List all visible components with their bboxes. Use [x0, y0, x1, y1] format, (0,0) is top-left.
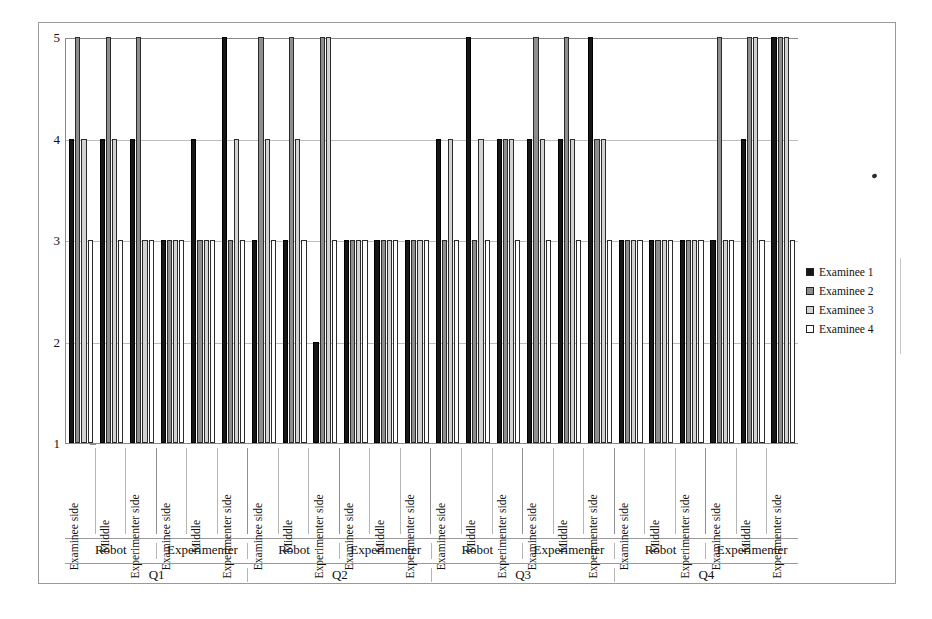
- x-axis-agent-cell: Robot: [248, 539, 340, 563]
- bar-examinee-1: [344, 240, 349, 443]
- bar-cluster: [130, 37, 157, 443]
- bar-examinee-1: [649, 240, 654, 443]
- bar-examinee-4: [301, 240, 306, 443]
- legend-item: Examinee 1: [806, 262, 902, 281]
- bar-examinee-3: [723, 240, 728, 443]
- bar-examinee-3: [295, 139, 300, 444]
- legend-label: Examinee 3: [819, 304, 874, 316]
- bar-cluster: [100, 37, 127, 443]
- bar-cluster: [710, 37, 737, 443]
- y-tick-label-1: 1: [34, 437, 60, 450]
- bar-examinee-2: [411, 240, 416, 443]
- bar-examinee-4: [729, 240, 734, 443]
- x-axis-position-cell: Experimenter side: [126, 444, 157, 538]
- bar-examinee-3: [509, 139, 514, 444]
- bar-examinee-4: [362, 240, 367, 443]
- bar-cluster: [344, 240, 371, 443]
- bar-examinee-1: [588, 37, 593, 443]
- x-axis-question-cell: Q2: [248, 564, 431, 586]
- bar-examinee-1: [527, 139, 532, 444]
- y-tick-label-5: 5: [34, 31, 60, 44]
- bar-examinee-2: [686, 240, 691, 443]
- bar-examinee-1: [680, 240, 685, 443]
- legend-swatch-icon: [806, 287, 814, 295]
- x-axis-agent-cell: Robot: [432, 539, 524, 563]
- bar-examinee-1: [283, 240, 288, 443]
- bar-examinee-4: [637, 240, 642, 443]
- bar-examinee-3: [478, 139, 483, 444]
- x-axis-agent-cell: Experimenter: [340, 539, 432, 563]
- bar-examinee-4: [668, 240, 673, 443]
- bar-cluster: [69, 37, 96, 443]
- legend-divider: [900, 258, 901, 354]
- x-axis-question-label: Q1: [65, 567, 248, 583]
- bar-cluster: [191, 139, 218, 444]
- bar-examinee-3: [142, 240, 147, 443]
- bar-examinee-2: [655, 240, 660, 443]
- bar-examinee-2: [747, 37, 752, 443]
- plot-area: [65, 38, 798, 444]
- bar-examinee-3: [784, 37, 789, 443]
- bar-cluster: [680, 240, 707, 443]
- bar-cluster: [466, 37, 493, 443]
- x-axis-position-cell: Middle: [187, 444, 218, 538]
- y-tick-label-3: 3: [34, 234, 60, 247]
- x-axis-position-cell: Examinee side: [340, 444, 371, 538]
- bar-examinee-2: [442, 240, 447, 443]
- bar-examinee-3: [81, 139, 86, 444]
- bar-cluster: [741, 37, 768, 443]
- bar-examinee-2: [472, 240, 477, 443]
- bar-examinee-4: [454, 240, 459, 443]
- bar-examinee-2: [350, 240, 355, 443]
- x-axis-position-cell: Experimenter side: [493, 444, 524, 538]
- bar-examinee-4: [332, 240, 337, 443]
- x-axis-position-cell: Middle: [645, 444, 676, 538]
- bar-examinee-2: [289, 37, 294, 443]
- x-axis-question-label: Q4: [615, 567, 798, 583]
- bar-examinee-3: [173, 240, 178, 443]
- bar-examinee-2: [320, 37, 325, 443]
- bar-examinee-3: [540, 139, 545, 444]
- x-axis-position-cell: Examinee side: [523, 444, 554, 538]
- bar-examinee-4: [118, 240, 123, 443]
- bar-examinee-2: [381, 240, 386, 443]
- bar-cluster: [771, 37, 798, 443]
- x-axis-agent-cell: Experimenter: [706, 539, 798, 563]
- bar-examinee-4: [698, 240, 703, 443]
- bar-cluster: [313, 37, 340, 443]
- bar-examinee-2: [594, 139, 599, 444]
- x-axis-agent-cell: Robot: [65, 539, 157, 563]
- bar-examinee-2: [136, 37, 141, 443]
- bar-examinee-2: [197, 240, 202, 443]
- x-axis-question-band: Q1Q2Q3Q4: [65, 564, 798, 586]
- x-axis-agent-label: Experimenter: [706, 542, 798, 558]
- x-axis-agent-label: Experimenter: [523, 542, 615, 558]
- legend-item: Examinee 2: [806, 281, 902, 300]
- bar-examinee-4: [424, 240, 429, 443]
- bar-cluster: [374, 240, 401, 443]
- bar-examinee-2: [167, 240, 172, 443]
- legend-swatch-icon: [806, 268, 814, 276]
- bar-examinee-4: [515, 240, 520, 443]
- bar-examinee-1: [405, 240, 410, 443]
- x-axis-position-cell: Middle: [279, 444, 310, 538]
- bar-examinee-1: [100, 139, 105, 444]
- x-axis-agent-label: Robot: [65, 542, 157, 558]
- x-axis-position-cell: Examinee side: [248, 444, 279, 538]
- legend: Examinee 1Examinee 2Examinee 3Examinee 4: [806, 262, 902, 338]
- x-axis-position-band: Examinee sideMiddleExperimenter sideExam…: [65, 444, 798, 539]
- bar-examinee-3: [692, 240, 697, 443]
- bar-cluster: [619, 240, 646, 443]
- legend-item: Examinee 3: [806, 300, 902, 319]
- x-axis-position-cell: Examinee side: [615, 444, 646, 538]
- bar-cluster: [649, 240, 676, 443]
- bar-examinee-4: [149, 240, 154, 443]
- bar-examinee-1: [191, 139, 196, 444]
- bar-examinee-1: [771, 37, 776, 443]
- x-axis-question-cell: Q1: [65, 564, 248, 586]
- bar-examinee-2: [258, 37, 263, 443]
- bar-examinee-2: [533, 37, 538, 443]
- x-axis-position-cell: Middle: [96, 444, 127, 538]
- y-axis: 12345: [30, 38, 60, 444]
- x-axis-agent-cell: Experimenter: [523, 539, 615, 563]
